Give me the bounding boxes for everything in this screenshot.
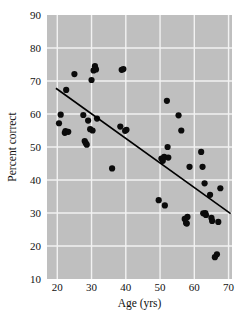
plot-area [47,15,232,279]
data-point [164,98,170,104]
x-tick-label: 20 [52,281,64,293]
y-tick-label: 10 [30,273,42,285]
data-point [93,66,99,72]
y-tick-label: 20 [30,240,42,252]
x-tick-label: 60 [189,281,201,293]
data-point [164,144,170,150]
data-point [84,142,90,148]
data-point [89,127,95,133]
y-tick-label: 40 [30,174,42,186]
data-point [203,212,209,218]
data-point [65,129,71,135]
data-point [88,77,94,83]
x-tick-label: 50 [155,281,167,293]
data-point [214,251,220,257]
data-point [186,164,192,170]
data-point [80,112,86,118]
y-tick-label: 50 [30,141,42,153]
data-point [120,66,126,72]
data-point [63,87,69,93]
data-point [201,180,207,186]
data-point [198,149,204,155]
data-point [56,120,62,126]
data-point [162,202,168,208]
data-point [109,165,115,171]
data-point [209,218,215,224]
data-point [215,219,221,225]
data-point [175,112,181,118]
data-point [117,123,123,129]
y-tick-label: 80 [30,42,42,54]
y-tick-label: 30 [30,207,42,219]
data-point [199,164,205,170]
data-point [217,185,223,191]
data-point [184,220,190,226]
x-axis-tick-labels: 203040506070 [52,281,235,293]
y-axis-title: Percent correct [6,112,18,182]
data-point [123,127,129,133]
x-axis-title: Age (yrs) [118,297,162,310]
data-point [178,127,184,133]
data-point [184,214,190,220]
y-tick-label: 70 [30,75,42,87]
data-point [58,112,64,118]
data-point [165,154,171,160]
data-point [156,197,162,203]
scatter-plot-figure: 203040506070 102030405060708090 Age (yrs… [0,0,241,319]
x-tick-label: 40 [120,281,132,293]
y-tick-label: 60 [30,108,42,120]
chart-canvas: 203040506070 102030405060708090 Age (yrs… [0,0,241,319]
x-tick-label: 70 [223,281,235,293]
x-tick-label: 30 [86,281,98,293]
data-point [85,118,91,124]
y-tick-label: 90 [30,9,42,21]
data-point [71,71,77,77]
y-axis-tick-labels: 102030405060708090 [30,9,42,285]
